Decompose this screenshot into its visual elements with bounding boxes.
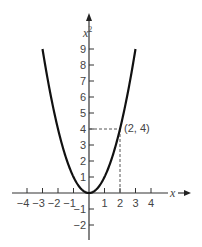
y-tick-label: 9: [80, 43, 86, 55]
y-axis-arrow-icon: [86, 13, 92, 21]
y-ticks: −2−1123456789: [73, 43, 94, 231]
x-axis-arrow-icon: [184, 190, 191, 196]
y-tick-label: 3: [80, 139, 86, 151]
x-tick-label: −2: [48, 197, 61, 209]
x-tick-label: 4: [148, 197, 154, 209]
parabola-chart: −4−3−2−11234 x −2−1123456789 x2 (2, 4): [0, 0, 202, 247]
point-label: (2, 4): [124, 122, 150, 134]
y-tick-label: 7: [80, 75, 86, 87]
x-axis: −4−3−2−11234 x: [12, 186, 191, 209]
y-tick-label: 8: [80, 59, 86, 71]
y-tick-label: 6: [80, 91, 86, 103]
x-tick-label: −4: [17, 197, 30, 209]
y-tick-label: 1: [80, 171, 86, 183]
x-axis-label: x: [169, 186, 176, 200]
y-axis: −2−1123456789 x2: [73, 13, 94, 240]
y-tick-label: 2: [80, 155, 86, 167]
y-tick-label: −1: [73, 203, 86, 215]
y-axis-label: x2: [82, 25, 92, 40]
y-tick-label: 4: [80, 123, 86, 135]
x-tick-label: 3: [132, 197, 138, 209]
x-tick-label: 1: [101, 197, 107, 209]
x-tick-label: 2: [117, 197, 123, 209]
x-tick-label: −3: [32, 197, 45, 209]
y-tick-label: −2: [73, 219, 86, 231]
y-tick-label: 5: [80, 107, 86, 119]
